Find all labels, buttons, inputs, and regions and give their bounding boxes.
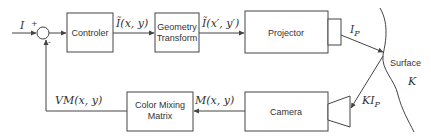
controller-block: Controler <box>67 13 113 52</box>
camera-lens-icon <box>328 96 350 127</box>
arrow-projector-to-surface <box>341 35 383 52</box>
geometry-label-line1: Geometry <box>157 22 197 32</box>
projector-lens-icon <box>328 19 341 45</box>
input-label: I <box>19 19 25 32</box>
controller-label: Controler <box>71 28 108 38</box>
projector-label: Projector <box>268 28 304 38</box>
surface-label: Surface <box>390 58 421 68</box>
minus-sign: - <box>48 38 51 47</box>
reflected-signal-label: KIP <box>361 94 381 109</box>
surface-reflectance-symbol: K <box>407 75 417 88</box>
block-diagram: I + - Controler Ĩ(x, y) Geometry Transfo… <box>0 0 431 140</box>
color-mixing-label-line2: Matrix <box>148 111 173 121</box>
feedback-label: VM(x, y) <box>55 94 102 107</box>
projector-output-label: IP <box>349 23 360 38</box>
geometry-transform-block: Geometry Transform <box>155 13 199 52</box>
plus-sign: + <box>31 19 38 28</box>
color-mixing-label-line1: Color Mixing <box>135 100 185 110</box>
camera-output-label: M(x, y) <box>194 94 234 107</box>
color-mixing-block: Color Mixing Matrix <box>127 92 193 131</box>
camera-block: Camera <box>245 92 350 131</box>
geometry-label-line2: Transform <box>157 33 198 43</box>
projector-block: Projector <box>245 11 341 53</box>
controller-output-label: Ĩ(x, y) <box>115 16 148 30</box>
summing-junction <box>37 27 49 39</box>
camera-label: Camera <box>270 107 302 117</box>
geometry-output-label: Ĩ(x′, y′) <box>201 16 239 30</box>
surface-curve <box>380 8 414 132</box>
